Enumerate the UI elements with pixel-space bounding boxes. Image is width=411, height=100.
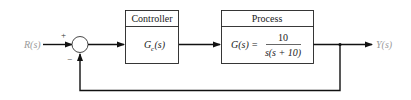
- plus-sign: +: [61, 30, 66, 40]
- controller-block: Controller G c (s): [126, 11, 179, 64]
- process-tf-numerator: 10: [278, 32, 288, 43]
- process-block: Process G(s) = 10 s(s + 10): [222, 11, 314, 64]
- controller-tf-arg: (s): [155, 39, 166, 51]
- controller-title: Controller: [131, 13, 173, 24]
- minus-sign: −: [67, 54, 72, 64]
- summing-junction: [72, 37, 88, 53]
- process-tf-lhs: G(s) =: [231, 39, 258, 51]
- block-diagram: R(s) + − Controller G c (s) Process G(s)…: [0, 0, 411, 100]
- process-title: Process: [252, 13, 283, 24]
- process-tf-denominator: s(s + 10): [265, 47, 302, 59]
- output-signal-label: Y(s): [376, 39, 393, 51]
- input-signal-label: R(s): [23, 39, 41, 51]
